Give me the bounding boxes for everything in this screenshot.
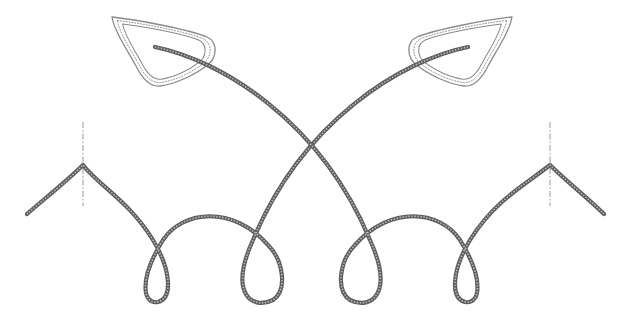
rope-right-strand — [27, 47, 468, 303]
leaf-left-outer-edge — [112, 17, 215, 86]
rope-right-body — [27, 47, 468, 303]
leaf-left — [112, 17, 215, 86]
leaf-right — [409, 17, 512, 86]
rope-ornament-diagram — [0, 0, 623, 333]
leaf-right-inner-cord — [414, 20, 507, 82]
leaf-right-outer-edge — [409, 17, 512, 86]
